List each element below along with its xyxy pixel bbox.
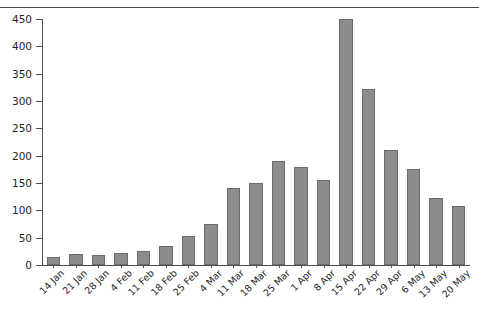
x-axis-tick bbox=[188, 265, 189, 268]
y-axis-tick-label: 200 bbox=[12, 151, 32, 162]
x-axis-tick bbox=[436, 265, 437, 268]
x-axis-tick bbox=[369, 265, 370, 268]
bar bbox=[362, 89, 376, 265]
bar bbox=[249, 183, 263, 265]
bar bbox=[92, 255, 106, 265]
bar bbox=[294, 167, 308, 265]
x-axis-tick bbox=[391, 265, 392, 268]
bar bbox=[182, 236, 196, 265]
y-axis-tick-label: 150 bbox=[12, 178, 32, 189]
y-axis-tick-label: 300 bbox=[12, 96, 32, 107]
bar bbox=[384, 150, 398, 265]
cropped-title-strip bbox=[0, 0, 479, 8]
x-axis-tick bbox=[98, 265, 99, 268]
x-axis-tick bbox=[121, 265, 122, 268]
x-axis-tick bbox=[459, 265, 460, 268]
bar-chart: 050100150200250300350400450 14 Jan21 Jan… bbox=[0, 8, 479, 315]
x-axis: 14 Jan21 Jan28 Jan4 Feb11 Feb18 Feb25 Fe… bbox=[42, 268, 470, 315]
y-axis-tick-label: 250 bbox=[12, 123, 32, 134]
x-axis-tick bbox=[233, 265, 234, 268]
bar bbox=[339, 19, 353, 265]
x-axis-tick bbox=[143, 265, 144, 268]
bar bbox=[159, 246, 173, 265]
y-axis-tick-label: 100 bbox=[12, 205, 32, 216]
bar bbox=[69, 254, 83, 265]
y-axis-tick-label: 350 bbox=[12, 69, 32, 80]
y-axis-tick bbox=[36, 265, 42, 266]
x-axis-tick bbox=[301, 265, 302, 268]
bar bbox=[227, 188, 241, 265]
x-axis-tick bbox=[414, 265, 415, 268]
x-axis-tick bbox=[166, 265, 167, 268]
bar bbox=[317, 180, 331, 265]
x-axis-tick bbox=[279, 265, 280, 268]
y-axis-tick-label: 0 bbox=[25, 260, 32, 271]
bar bbox=[137, 251, 151, 265]
bar bbox=[407, 169, 421, 265]
y-axis-tick-label: 50 bbox=[19, 233, 32, 244]
bar bbox=[429, 198, 443, 265]
x-axis-tick bbox=[76, 265, 77, 268]
x-axis-tick bbox=[256, 265, 257, 268]
y-axis-tick-label: 450 bbox=[12, 14, 32, 25]
x-axis-tick bbox=[53, 265, 54, 268]
x-axis-tick bbox=[324, 265, 325, 268]
bar bbox=[272, 161, 286, 265]
x-axis-tick bbox=[211, 265, 212, 268]
bar-series bbox=[42, 19, 470, 265]
bar bbox=[204, 224, 218, 265]
bar bbox=[452, 206, 466, 265]
x-axis-tick bbox=[346, 265, 347, 268]
y-axis-tick-label: 400 bbox=[12, 41, 32, 52]
bar bbox=[47, 257, 61, 265]
bar bbox=[114, 253, 128, 265]
